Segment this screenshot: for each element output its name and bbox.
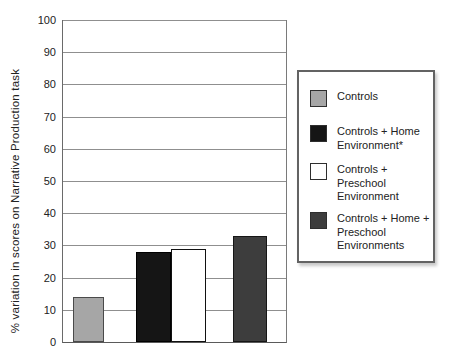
legend-label-line: Controls — [337, 90, 378, 104]
legend-label: Controls + HomeEnvironment* — [337, 125, 420, 152]
legend-swatch — [310, 212, 327, 229]
legend: ControlsControls + HomeEnvironment*Contr… — [297, 70, 435, 263]
y-tick-label: 10 — [0, 303, 56, 317]
y-tick-label: 20 — [0, 271, 56, 285]
bar — [73, 297, 104, 342]
y-tick-label: 50 — [0, 174, 56, 188]
plot-area — [62, 20, 287, 343]
bar-chart-figure: % variation in scores on Narrative Produ… — [0, 0, 449, 362]
y-tick-label: 100 — [0, 13, 56, 27]
gridline — [63, 52, 286, 53]
gridline — [63, 20, 286, 21]
legend-label-line: Preschool — [337, 177, 399, 191]
legend-label-line: Preschool — [337, 226, 429, 240]
legend-label: Controls + Home +PreschoolEnvironments — [337, 212, 429, 253]
y-tick-label: 90 — [0, 45, 56, 59]
legend-label: Controls +PreschoolEnvironment — [337, 163, 399, 204]
legend-label-line: Environments — [337, 239, 429, 253]
y-tick-label: 60 — [0, 142, 56, 156]
legend-label-line: Environment — [337, 190, 399, 204]
legend-item: Controls — [310, 90, 378, 107]
gridline — [63, 117, 286, 118]
bar — [171, 249, 206, 342]
y-tick-label: 30 — [0, 238, 56, 252]
legend-label-line: Environment* — [337, 139, 420, 153]
gridline — [63, 84, 286, 85]
gridline — [63, 149, 286, 150]
legend-swatch — [310, 125, 327, 142]
legend-label-line: Controls + — [337, 163, 399, 177]
legend-label-line: Controls + Home — [337, 125, 420, 139]
legend-swatch — [310, 90, 327, 107]
y-tick-label: 80 — [0, 77, 56, 91]
y-tick-label: 70 — [0, 110, 56, 124]
gridline — [63, 181, 286, 182]
gridline — [63, 213, 286, 214]
y-tick-label: 40 — [0, 206, 56, 220]
legend-item: Controls + Home +PreschoolEnvironments — [310, 212, 429, 253]
legend-label: Controls — [337, 90, 378, 104]
y-axis-label: % variation in scores on Narrative Produ… — [9, 69, 21, 333]
legend-swatch — [310, 163, 327, 180]
legend-label-line: Controls + Home + — [337, 212, 429, 226]
legend-item: Controls +PreschoolEnvironment — [310, 163, 399, 204]
bar — [233, 236, 267, 342]
legend-item: Controls + HomeEnvironment* — [310, 125, 420, 152]
y-tick-label: 0 — [0, 335, 56, 349]
bar — [136, 252, 171, 342]
